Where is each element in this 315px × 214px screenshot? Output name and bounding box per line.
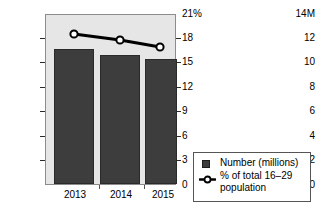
category-label-2014: 2014	[99, 189, 143, 200]
right-axis-tick-label-9: 9	[182, 106, 188, 116]
category-label-2013: 2013	[53, 189, 97, 200]
legend-label-number-millions: Number (millions)	[220, 157, 298, 169]
left-axis-tick-label-4: 4	[277, 131, 315, 141]
legend-item-number-millions: Number (millions)	[199, 157, 306, 169]
legend-item-percent-of-total: % of total 16–29 population	[199, 170, 306, 193]
left-axis-tick-label-12: 12	[277, 33, 315, 43]
right-axis-tick-label-18: 18	[182, 33, 193, 43]
legend-label-percent-line2: population	[220, 182, 266, 193]
right-axis-tick-label-12: 12	[182, 82, 193, 92]
chart-legend: Number (millions) % of total 16–29 popul…	[193, 152, 311, 202]
legend-square-marker-icon	[199, 158, 216, 169]
left-axis-tick-label-14: 14M	[277, 9, 315, 19]
data-point-2014	[116, 36, 123, 43]
data-point-2015	[156, 43, 163, 50]
left-axis-tick-label-8: 8	[277, 82, 315, 92]
data-point-2013	[70, 30, 77, 37]
legend-label-percent-of-total: % of total 16–29 population	[220, 170, 292, 193]
percentage-line-series	[46, 15, 177, 186]
left-axis-tick-label-10: 10	[277, 57, 315, 67]
legend-label-percent-line1: % of total 16–29	[220, 170, 292, 181]
dual-axis-bar-line-chart: 14M 12 10 8 6 4 2 0 21% 18 15 12 9 6 3 0	[0, 0, 315, 214]
plot-area	[45, 14, 176, 185]
right-axis-tick-label-15: 15	[182, 57, 193, 67]
right-axis-tick-label-6: 6	[182, 131, 188, 141]
category-label-2015: 2015	[141, 189, 185, 200]
legend-line-circle-marker-icon	[199, 171, 216, 182]
right-axis-tick-label-21: 21%	[182, 9, 202, 19]
right-axis-tick-label-3: 3	[182, 155, 188, 165]
left-axis-tick-label-6: 6	[277, 106, 315, 116]
